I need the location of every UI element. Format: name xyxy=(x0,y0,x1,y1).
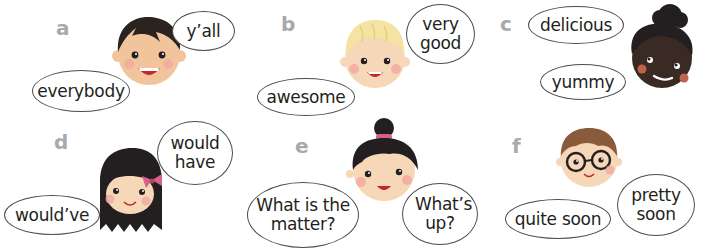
speech-bubble-quite-soon: quite soon xyxy=(505,199,611,239)
bubble-text: y’all xyxy=(187,22,221,41)
panel-b-label: b xyxy=(281,14,295,34)
speech-bubble-pretty-soon: pretty soon xyxy=(617,174,695,236)
bubble-text: would have xyxy=(169,134,221,172)
face-boy-glasses xyxy=(556,124,622,190)
bubble-text: quite soon xyxy=(515,210,601,229)
speech-bubble-wouldve: would’ve xyxy=(4,195,100,235)
speech-bubble-everybody: everybody xyxy=(32,70,130,112)
speech-bubble-what-is-the-matter: What is the matter? xyxy=(247,182,359,248)
bubble-text: What’s up? xyxy=(415,195,465,233)
bubble-text: awesome xyxy=(267,88,346,107)
panel-f-label: f xyxy=(512,136,521,156)
panel-d-label: d xyxy=(54,132,68,152)
speech-bubble-yummy: yummy xyxy=(540,64,626,100)
bubble-text: everybody xyxy=(37,82,124,101)
face-girl-long-hair-bow xyxy=(96,146,166,234)
bubble-text: yummy xyxy=(552,73,615,92)
speech-bubble-whats-up: What’s up? xyxy=(402,183,478,245)
speech-bubble-would-have: would have xyxy=(157,121,233,185)
panel-e-label: e xyxy=(295,136,309,156)
speech-bubble-yall: y’all xyxy=(172,11,235,51)
bubble-text: delicious xyxy=(540,16,612,35)
speech-bubble-very-good: very good xyxy=(406,4,475,64)
face-boy-blond-hair xyxy=(340,16,410,90)
speech-bubble-delicious: delicious xyxy=(528,6,624,44)
panel-a-label: a xyxy=(56,18,70,38)
bubble-text: What is the matter? xyxy=(255,196,351,234)
bubble-text: pretty soon xyxy=(629,186,683,224)
bubble-text: very good xyxy=(417,15,465,53)
panel-c-label: c xyxy=(500,14,512,34)
face-girl-hair-bun xyxy=(346,118,422,204)
face-girl-curly-hair xyxy=(620,2,700,90)
speech-bubble-awesome: awesome xyxy=(257,78,355,116)
bubble-text: would’ve xyxy=(15,206,89,225)
